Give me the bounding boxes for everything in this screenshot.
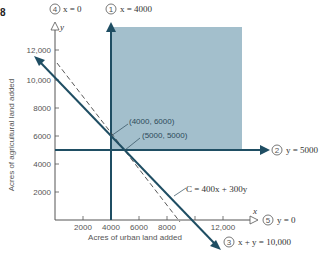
constraint-label-2: 2 y = 5000 <box>272 145 319 155</box>
objective-label: C = 400x + 300y <box>186 184 248 194</box>
x-tick-label: 4000 <box>102 223 120 232</box>
y-tick-label: 8000 <box>33 104 51 113</box>
constraint-label-4: 4 x = 0 <box>50 4 82 14</box>
chart: 2000 4000 6000 8000 10,000 12,000 2000 4… <box>0 0 335 259</box>
svg-text:1: 1 <box>109 5 114 14</box>
point-label-4000-6000: (4000, 6000) <box>129 117 175 126</box>
y-ticks <box>55 50 59 192</box>
x-ticks <box>83 216 223 220</box>
leader-line <box>174 188 186 196</box>
svg-text:y = 0: y = 0 <box>277 215 296 225</box>
x-tick-label: 12,000 <box>211 223 236 232</box>
point-label-5000-5000: (5000, 5000) <box>142 131 188 140</box>
svg-text:3: 3 <box>227 238 232 247</box>
x-axis-name: x <box>252 206 257 216</box>
svg-text:y = 5000: y = 5000 <box>286 145 319 155</box>
x-tick-label: 6000 <box>130 223 148 232</box>
y-tick-label: 10,000 <box>27 76 52 85</box>
svg-text:2: 2 <box>275 146 280 155</box>
x-axis-arrow-icon <box>250 216 258 224</box>
svg-text:x = 4000: x = 4000 <box>120 4 153 14</box>
svg-text:4: 4 <box>53 5 58 14</box>
figure-number: 8 <box>0 7 6 18</box>
svg-text:5: 5 <box>266 216 271 225</box>
y-axis-name: y <box>59 22 64 32</box>
x-tick-label: 8000 <box>158 223 176 232</box>
y-tick-label: 4000 <box>33 160 51 169</box>
x-axis-title: Acres of urban land added <box>88 233 182 242</box>
y-tick-label: 2000 <box>33 188 51 197</box>
y-tick-label: 12,000 <box>27 46 52 55</box>
constraint-label-3: 3 x + y = 10,000 <box>224 237 291 247</box>
x-tick-label: 2000 <box>74 223 92 232</box>
svg-text:x + y = 10,000: x + y = 10,000 <box>238 237 291 247</box>
y-tick-label: 6000 <box>33 132 51 141</box>
y-axis-arrow-icon <box>51 22 59 30</box>
constraint-label-1: 1 x = 4000 <box>106 4 153 14</box>
constraint-label-5: 5 y = 0 <box>263 215 296 225</box>
arrow-right-icon <box>260 145 270 155</box>
y-axis-title: Acres of agricultural land added <box>7 79 16 192</box>
svg-text:x = 0: x = 0 <box>63 4 82 14</box>
